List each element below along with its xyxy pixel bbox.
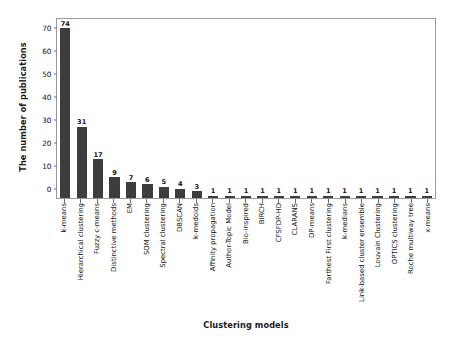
- x-axis-tick-label: Spectral clustering: [160, 203, 167, 268]
- bar[interactable]: 1: [290, 196, 300, 198]
- y-axis-tick-label: 30: [42, 116, 54, 125]
- bar[interactable]: 1: [307, 196, 317, 198]
- y-axis-tick-label: 40: [42, 93, 54, 102]
- bar-item[interactable]: 17: [90, 19, 106, 198]
- x-axis-label-slot: Link-based cluster ensemble: [353, 203, 370, 315]
- bar[interactable]: 7: [126, 182, 136, 198]
- x-axis-tick-label: DBSCAN: [176, 203, 183, 232]
- bar-value-label: 74: [61, 21, 70, 28]
- bar-item[interactable]: 31: [73, 19, 89, 198]
- bar-item[interactable]: 1: [369, 19, 385, 198]
- x-axis-label-slot: k-medians: [337, 203, 354, 315]
- x-axis-tick-label: Bio-inspired: [242, 203, 249, 244]
- bar-series: 74311797654311111111111111: [57, 19, 435, 198]
- bar-value-label: 3: [194, 184, 199, 191]
- bar-value-label: 1: [359, 188, 364, 195]
- bar-item[interactable]: 1: [304, 19, 320, 198]
- x-axis-tick-label: Link-based cluster ensemble: [358, 203, 365, 302]
- x-axis-tick-label: CLARANS: [292, 203, 299, 235]
- y-axis-tick: 70: [42, 24, 57, 33]
- bar-value-label: 1: [425, 188, 430, 195]
- bar-item[interactable]: 1: [254, 19, 270, 198]
- bar-chart-figure: The number of publications 0102030405060…: [0, 0, 460, 343]
- bar[interactable]: 1: [372, 196, 382, 198]
- bar[interactable]: 1: [389, 196, 399, 198]
- y-axis-tick-label: 70: [42, 24, 54, 33]
- bar-item[interactable]: 1: [386, 19, 402, 198]
- bar-item[interactable]: 1: [238, 19, 254, 198]
- bar[interactable]: 1: [241, 196, 251, 198]
- x-axis-tick-label: DP-means: [309, 203, 316, 238]
- bar-value-label: 5: [162, 179, 167, 186]
- bar[interactable]: 1: [257, 196, 267, 198]
- bar-value-label: 1: [244, 188, 249, 195]
- y-axis-tick: 0: [47, 185, 57, 194]
- bar[interactable]: 3: [192, 191, 202, 198]
- bar[interactable]: 1: [422, 196, 432, 198]
- y-axis-tick-label: 60: [42, 47, 54, 56]
- x-axis-title: Clustering models: [56, 320, 436, 330]
- bar-value-label: 1: [293, 188, 298, 195]
- bar[interactable]: 1: [340, 196, 350, 198]
- x-axis-label-slot: Hierarchical clustering: [73, 203, 90, 315]
- x-axis-tick-label: EM: [127, 203, 134, 213]
- bar[interactable]: 5: [159, 187, 169, 198]
- bar[interactable]: 1: [208, 196, 218, 198]
- bar-value-label: 1: [227, 188, 232, 195]
- x-axis-label-slot: DBSCAN: [172, 203, 189, 315]
- bar-item[interactable]: 9: [106, 19, 122, 198]
- bar-item[interactable]: 1: [271, 19, 287, 198]
- x-axis-label-slot: CLARANS: [287, 203, 304, 315]
- x-axis-label-slot: Louvain Clustering: [370, 203, 387, 315]
- y-axis-tick: 60: [42, 47, 57, 56]
- bar-item[interactable]: 7: [123, 19, 139, 198]
- bar-item[interactable]: 5: [156, 19, 172, 198]
- bar[interactable]: 9: [109, 177, 119, 198]
- y-axis-tick: 20: [42, 139, 57, 148]
- x-axis-label-slot: EM: [122, 203, 139, 315]
- bar-item[interactable]: 1: [221, 19, 237, 198]
- bar[interactable]: 31: [77, 127, 87, 198]
- bar[interactable]: 1: [356, 196, 366, 198]
- bar[interactable]: 1: [274, 196, 284, 198]
- y-axis-title: The number of publications: [18, 22, 28, 192]
- y-axis-tick: 50: [42, 70, 57, 79]
- bar-item[interactable]: 1: [320, 19, 336, 198]
- bar-value-label: 6: [145, 177, 150, 184]
- x-axis-label-slot: x-means: [419, 203, 436, 315]
- x-axis-tick-label: SOM clustering: [143, 203, 150, 255]
- bar-item[interactable]: 1: [402, 19, 418, 198]
- bar[interactable]: 74: [60, 28, 70, 198]
- x-axis-label-slot: Author-Topic Model: [221, 203, 238, 315]
- bar[interactable]: 1: [323, 196, 333, 198]
- x-axis-tick-label: k-medians: [342, 203, 349, 239]
- bar-item[interactable]: 1: [205, 19, 221, 198]
- bar-item[interactable]: 3: [189, 19, 205, 198]
- bar-item[interactable]: 1: [287, 19, 303, 198]
- bar-item[interactable]: 74: [57, 19, 73, 198]
- bar[interactable]: 17: [93, 159, 103, 198]
- bar-item[interactable]: 6: [139, 19, 155, 198]
- bar[interactable]: 4: [175, 189, 185, 198]
- bar[interactable]: 1: [225, 196, 235, 198]
- x-axis-tick-label: BIRCH: [259, 203, 266, 224]
- bar-value-label: 1: [309, 188, 314, 195]
- bar-item[interactable]: 1: [419, 19, 435, 198]
- x-axis-label-slot: Roche multiway tree: [403, 203, 420, 315]
- bar-item[interactable]: 1: [336, 19, 352, 198]
- y-axis-tick-label: 20: [42, 139, 54, 148]
- bar[interactable]: 1: [405, 196, 415, 198]
- bar-item[interactable]: 1: [353, 19, 369, 198]
- x-axis-label-slot: Fuzzy c-means: [89, 203, 106, 315]
- x-axis-tick-label: OPTICS clustering: [391, 203, 398, 264]
- x-axis-label-slot: Farthest First clustering: [320, 203, 337, 315]
- x-axis-label-slot: Bio-inspired: [238, 203, 255, 315]
- bar-item[interactable]: 4: [172, 19, 188, 198]
- x-axis-label-slot: Spectral clustering: [155, 203, 172, 315]
- bar-value-label: 1: [260, 188, 265, 195]
- x-axis-tick-labels: k-meansHierarchical clusteringFuzzy c-me…: [56, 203, 436, 315]
- x-axis-label-slot: BIRCH: [254, 203, 271, 315]
- bar[interactable]: 6: [142, 184, 152, 198]
- bar-value-label: 17: [94, 152, 103, 159]
- x-axis-label-slot: OPTICS clustering: [386, 203, 403, 315]
